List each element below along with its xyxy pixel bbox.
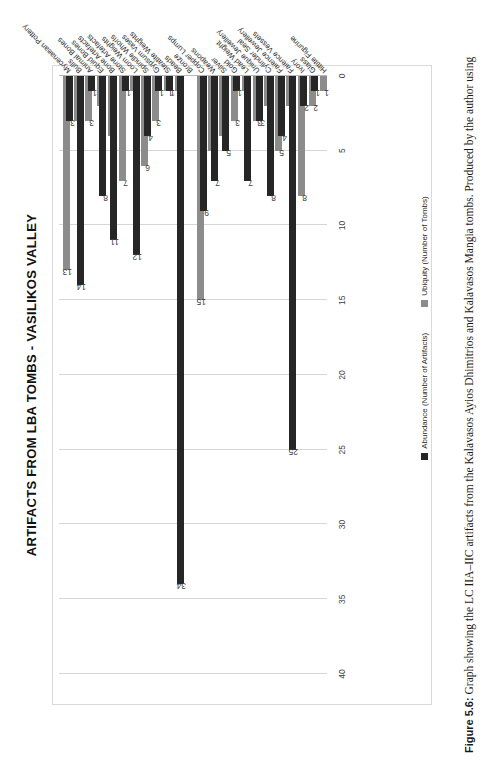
bar-abundance[interactable] (300, 76, 307, 106)
bar-value-label: 8 (104, 193, 109, 203)
bar-abundance[interactable] (99, 76, 106, 196)
bar-value-label: 7 (215, 178, 220, 188)
legend-label: Ubiquity (Number of Tombs) (420, 196, 429, 295)
chart-plot-area: 051015202530354013Mycenaean Pottery33Bul… (52, 65, 432, 705)
bar-abundance[interactable] (133, 76, 140, 255)
axis-tick-label: 35 (337, 595, 347, 604)
axis-tick-label: 15 (337, 296, 347, 305)
bar-abundance[interactable] (66, 76, 73, 121)
bar-abundance[interactable] (211, 76, 218, 181)
axis-tick-label: 10 (337, 221, 347, 230)
bar-abundance[interactable] (200, 76, 207, 211)
bar-value-label: 5 (226, 148, 231, 158)
axis-tick-label: 5 (337, 148, 347, 153)
bar-value-label: 4 (148, 133, 153, 143)
figure-caption: Figure 5.6: Graph showing the LC IIA–IIC… (462, 8, 478, 753)
figure-area: ARTIFACTS FROM LBA TOMBS - VASILIKOS VAL… (14, 36, 438, 761)
chart-title: ARTIFACTS FROM LBA TOMBS - VASILIKOS VAL… (24, 65, 39, 705)
chart-legend: Abundance (Number of Artifacts)Ubiquity … (420, 8, 429, 648)
legend-swatch-icon (421, 300, 428, 307)
bar-value-label: 3 (260, 118, 265, 128)
bar-value-label: 1 (324, 88, 329, 98)
bar-value-label: 25 (289, 447, 298, 457)
axis-tick-label: 25 (337, 445, 347, 454)
axis-tick-label: 0 (337, 74, 347, 79)
bar-value-label: 11 (111, 237, 120, 247)
legend-label: Abundance (Number of Artifacts) (420, 333, 429, 449)
bar-value-label: 4 (282, 133, 287, 143)
bar-abundance[interactable] (278, 76, 285, 136)
figure-caption-text: Graph showing the LC IIA–IIC artifacts f… (463, 57, 475, 698)
bar-value-label: 34 (177, 581, 186, 591)
bar-abundance[interactable] (110, 76, 117, 240)
axis-tick-label: 20 (337, 370, 347, 379)
bar-value-label: 9 (204, 208, 209, 218)
bar-group: 11Hittite Figurine (310, 76, 332, 674)
bar-abundance[interactable] (144, 76, 151, 136)
figure-caption-label: Figure 5.6: (463, 697, 475, 753)
bar-value-label: 14 (76, 282, 85, 292)
bar-value-label: 8 (271, 193, 276, 203)
figure-page: ARTIFACTS FROM LBA TOMBS - VASILIKOS VAL… (0, 0, 489, 761)
bar-abundance[interactable] (267, 76, 274, 196)
bar-abundance[interactable] (77, 76, 84, 285)
legend-item[interactable]: Abundance (Number of Artifacts) (420, 333, 429, 460)
axis-tick-label: 40 (337, 669, 347, 678)
plot-canvas: 051015202530354013Mycenaean Pottery33Bul… (59, 76, 327, 674)
bar-value-label: 12 (132, 252, 141, 262)
legend-item[interactable]: Ubiquity (Number of Tombs) (420, 196, 429, 306)
bar-abundance[interactable] (244, 76, 251, 181)
bar-abundance[interactable] (222, 76, 229, 151)
bar-abundance[interactable] (289, 76, 296, 450)
legend-swatch-icon (421, 453, 428, 460)
bar-abundance[interactable] (177, 76, 184, 584)
axis-tick-label: 30 (337, 520, 347, 529)
bar-abundance[interactable] (256, 76, 263, 121)
bar-value-label: 7 (249, 178, 254, 188)
